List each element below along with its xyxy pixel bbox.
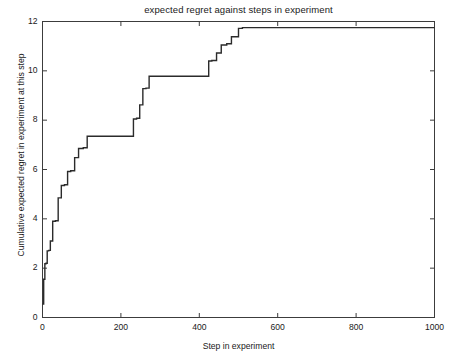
plot-area — [0, 0, 450, 364]
x-tick-label: 1000 — [415, 322, 450, 332]
axes-box — [43, 22, 435, 318]
y-axis-label: Cumulative expected regret in experiment… — [16, 30, 26, 280]
x-tick-label: 600 — [258, 322, 298, 332]
x-axis-label: Step in experiment — [42, 341, 435, 351]
x-tick-label: 400 — [179, 322, 219, 332]
x-tick-label: 200 — [101, 322, 141, 332]
x-tick-label: 0 — [23, 322, 63, 332]
figure-canvas: expected regret against steps in experim… — [0, 0, 450, 364]
y-tick-label: 0 — [12, 312, 38, 322]
regret-step-curve — [43, 28, 435, 304]
tick-marks — [43, 22, 435, 318]
x-tick-label: 800 — [336, 322, 376, 332]
y-tick-label: 12 — [12, 16, 38, 26]
